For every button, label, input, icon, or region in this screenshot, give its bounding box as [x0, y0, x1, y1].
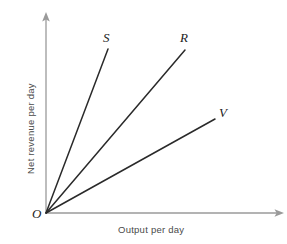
line-label-r: R: [180, 31, 188, 44]
line-label-v: V: [219, 106, 227, 119]
y-axis: [42, 12, 50, 213]
y-axis-title: Net revenue per day: [25, 83, 36, 174]
x-axis-title: Output per day: [118, 224, 184, 235]
x-axis: [46, 209, 284, 217]
plot-area: [0, 0, 287, 244]
line-r: [46, 50, 185, 213]
origin-label: O: [32, 207, 41, 220]
line-s: [46, 49, 108, 213]
line-label-s: S: [103, 31, 110, 44]
line-v: [46, 119, 215, 213]
chart-figure: O S R V Net revenue per day Output per d…: [0, 0, 287, 244]
